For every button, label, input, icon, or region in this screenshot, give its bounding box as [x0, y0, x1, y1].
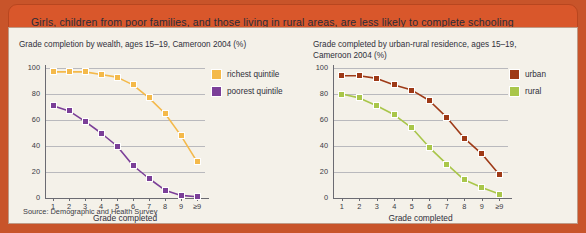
series-lines — [333, 68, 508, 200]
y-axis-tick-label: 20 — [306, 168, 328, 176]
y-axis-tick-label: 80 — [306, 90, 328, 98]
x-axis-tick-label: 8 — [455, 203, 473, 211]
y-axis-tick-label: 40 — [18, 142, 40, 150]
legend-swatch-icon — [211, 69, 222, 80]
data-point-marker — [114, 143, 121, 150]
x-axis-tick-label: 5 — [403, 203, 421, 211]
data-point-marker — [146, 175, 153, 182]
data-point-marker — [82, 118, 89, 125]
y-axis-tick-label: 40 — [306, 142, 328, 150]
data-point-marker — [66, 107, 73, 114]
y-axis-tick-label: 60 — [306, 116, 328, 124]
y-axis-tick-label: 100 — [18, 64, 40, 72]
y-axis-tick-label: 0 — [306, 194, 328, 202]
data-point-marker — [338, 91, 345, 98]
data-point-marker — [391, 111, 398, 118]
data-point-marker — [443, 161, 450, 168]
data-point-marker — [426, 144, 433, 151]
legend-label: rural — [525, 87, 541, 96]
chart-residence: Grade completed by urban-rural residence… — [309, 28, 578, 224]
data-point-marker — [478, 150, 485, 157]
charts-panel: Grade completion by wealth, ages 15–19, … — [8, 27, 578, 224]
data-point-marker — [66, 68, 73, 75]
plot-area-wealth: 020406080100123456789≥9 — [45, 68, 205, 198]
data-point-marker — [478, 184, 485, 191]
data-point-marker — [98, 71, 105, 78]
data-point-marker — [194, 193, 201, 200]
data-point-marker — [130, 162, 137, 169]
data-point-marker — [461, 135, 468, 142]
x-axis-tick-label: 6 — [420, 203, 438, 211]
series-line-urban — [342, 76, 500, 175]
y-axis-tick-label: 80 — [18, 90, 40, 98]
data-point-marker — [408, 87, 415, 94]
source-note: Source: Demographic and Health Survey — [23, 207, 157, 216]
y-axis-tick-label: 100 — [306, 64, 328, 72]
data-point-marker — [356, 94, 363, 101]
data-point-marker — [162, 110, 169, 117]
y-axis-tick-label: 20 — [18, 168, 40, 176]
legend-label: poorest quintile — [227, 87, 283, 96]
series-line-richest-quintile — [53, 72, 197, 162]
legend-swatch-icon — [211, 86, 222, 97]
x-axis-tick-label: 4 — [385, 203, 403, 211]
data-point-marker — [373, 75, 380, 82]
data-point-marker — [98, 130, 105, 137]
chart-title-wealth: Grade completion by wealth, ages 15–19, … — [19, 40, 287, 51]
data-point-marker — [356, 72, 363, 79]
data-point-marker — [114, 74, 121, 81]
data-point-marker — [178, 192, 185, 199]
data-point-marker — [194, 158, 201, 165]
data-point-marker — [146, 94, 153, 101]
data-point-marker — [496, 191, 503, 198]
x-axis-tick-label: 7 — [438, 203, 456, 211]
data-point-marker — [178, 132, 185, 139]
data-point-marker — [408, 124, 415, 131]
series-line-poorest-quintile — [53, 106, 197, 197]
chart-title-residence: Grade completed by urban-rural residence… — [313, 40, 578, 61]
legend-swatch-icon — [509, 69, 520, 80]
data-point-marker — [461, 176, 468, 183]
x-axis-tick-label: 2 — [350, 203, 368, 211]
x-axis-label-residence: Grade completed — [333, 213, 508, 223]
data-point-marker — [443, 114, 450, 121]
data-point-marker — [496, 171, 503, 178]
data-point-marker — [130, 81, 137, 88]
x-axis-tick-label: 3 — [368, 203, 386, 211]
x-axis-tick-label: 9 — [473, 203, 491, 211]
data-point-marker — [391, 81, 398, 88]
legend-label: urban — [525, 70, 546, 79]
x-axis-tick-label: 1 — [333, 203, 351, 211]
data-point-marker — [373, 102, 380, 109]
data-point-marker — [50, 68, 57, 75]
y-axis-tick-label: 60 — [18, 116, 40, 124]
figure-frame: Girls, children from poor families, and … — [0, 0, 586, 233]
data-point-marker — [82, 68, 89, 75]
x-axis-tick-label: ≥9 — [490, 203, 508, 211]
legend-label: richest quintile — [227, 70, 279, 79]
legend-swatch-icon — [509, 86, 520, 97]
data-point-marker — [50, 102, 57, 109]
series-line-rural — [342, 94, 500, 194]
data-point-marker — [426, 97, 433, 104]
data-point-marker — [338, 72, 345, 79]
y-axis-tick-label: 0 — [18, 194, 40, 202]
plot-area-residence: 020406080100123456789≥9 — [333, 68, 508, 198]
x-axis-tick-label: ≥9 — [188, 203, 206, 211]
data-point-marker — [162, 187, 169, 194]
